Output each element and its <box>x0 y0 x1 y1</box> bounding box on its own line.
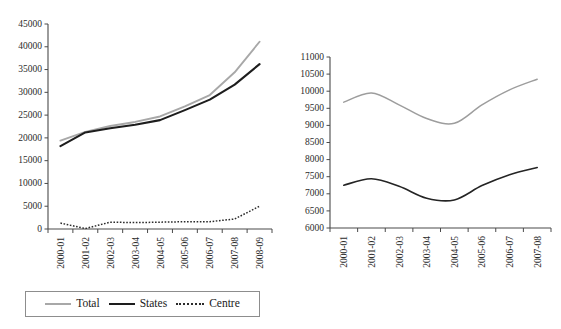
legend-label-states: States <box>140 298 167 310</box>
left-x-axis-ticks <box>48 229 272 233</box>
legend-label-total: Total <box>76 298 99 310</box>
legend-swatch-states-icon <box>109 303 135 305</box>
right-plot-area: 6000650070007500800085009000950010000105… <box>281 0 561 285</box>
y-tick-label: 8000 <box>305 154 324 164</box>
y-tick-label: 45000 <box>18 19 42 29</box>
x-tick-label: 2004-05 <box>450 236 460 268</box>
y-tick-label: 7500 <box>305 171 324 181</box>
x-tick-label: 2003-04 <box>422 236 432 268</box>
y-tick-label: 35000 <box>18 64 42 74</box>
series-line-centre <box>60 206 259 228</box>
y-tick-label: 9500 <box>305 103 324 113</box>
left-x-axis-labels: 2000-012001-022002-032003-042004-052005-… <box>56 237 265 269</box>
series-line-all-schools <box>344 79 537 124</box>
legend-label-centre: Centre <box>209 298 240 310</box>
y-tick-label: 10000 <box>18 178 42 188</box>
y-tick-label: 20000 <box>18 133 42 143</box>
x-tick-label: 2000-01 <box>56 237 66 269</box>
right-chart-svg: 6000650070007500800085009000950010000105… <box>281 0 561 285</box>
y-tick-label: 10000 <box>300 86 324 96</box>
y-tick-label: 25000 <box>18 110 42 120</box>
series-line-government-aided-schools <box>344 167 537 200</box>
x-tick-label: 2002-03 <box>106 237 116 269</box>
right-y-axis-ticks: 6000650070007500800085009000950010000105… <box>300 52 330 233</box>
y-tick-label: 6000 <box>305 223 324 233</box>
series-line-total <box>60 42 259 141</box>
left-chart-svg: 0500010000150002000025000300003500040000… <box>0 0 281 285</box>
y-tick-label: 30000 <box>18 87 42 97</box>
right-x-axis-ticks <box>330 228 551 232</box>
y-tick-label: 5000 <box>23 201 42 211</box>
legend-item-centre: Centre <box>176 298 240 310</box>
y-tick-label: 15000 <box>18 155 42 165</box>
x-tick-label: 2001-02 <box>367 236 377 268</box>
y-tick-label: 40000 <box>18 41 42 51</box>
legend-swatch-total-icon <box>45 303 71 305</box>
legend-left: Total States Centre <box>25 291 260 317</box>
x-tick-label: 2000-01 <box>339 236 349 268</box>
chart-panel-left: 0500010000150002000025000300003500040000… <box>0 0 281 329</box>
x-tick-label: 2006-07 <box>205 237 215 269</box>
x-tick-label: 2005-06 <box>180 237 190 269</box>
x-tick-label: 2002-03 <box>395 236 405 268</box>
x-tick-label: 2007-08 <box>533 236 543 268</box>
left-y-axis-ticks: 0500010000150002000025000300003500040000… <box>18 19 48 234</box>
x-tick-label: 2003-04 <box>131 237 141 269</box>
legend-item-total: Total <box>45 298 99 310</box>
figure-two-panel-line-charts: 0500010000150002000025000300003500040000… <box>0 0 561 329</box>
y-tick-label: 9000 <box>305 120 324 130</box>
right-x-axis-labels: 2000-012001-022002-032003-042004-052005-… <box>339 236 542 268</box>
x-tick-label: 2008-09 <box>255 237 265 269</box>
x-tick-label: 2004-05 <box>156 237 166 269</box>
x-tick-label: 2005-06 <box>477 236 487 268</box>
legend-item-states: States <box>109 298 167 310</box>
y-tick-label: 8500 <box>305 137 324 147</box>
y-tick-label: 10500 <box>300 69 324 79</box>
left-plot-area: 0500010000150002000025000300003500040000… <box>0 0 281 285</box>
x-tick-label: 2001-02 <box>81 237 91 269</box>
chart-panel-right: 6000650070007500800085009000950010000105… <box>281 0 561 329</box>
x-tick-label: 2006-07 <box>505 236 515 268</box>
y-tick-label: 11000 <box>301 52 325 62</box>
legend-swatch-centre-icon <box>176 303 204 305</box>
y-tick-label: 6500 <box>305 206 324 216</box>
x-tick-label: 2007-08 <box>230 237 240 269</box>
y-tick-label: 7000 <box>305 188 324 198</box>
y-tick-label: 0 <box>37 224 42 234</box>
